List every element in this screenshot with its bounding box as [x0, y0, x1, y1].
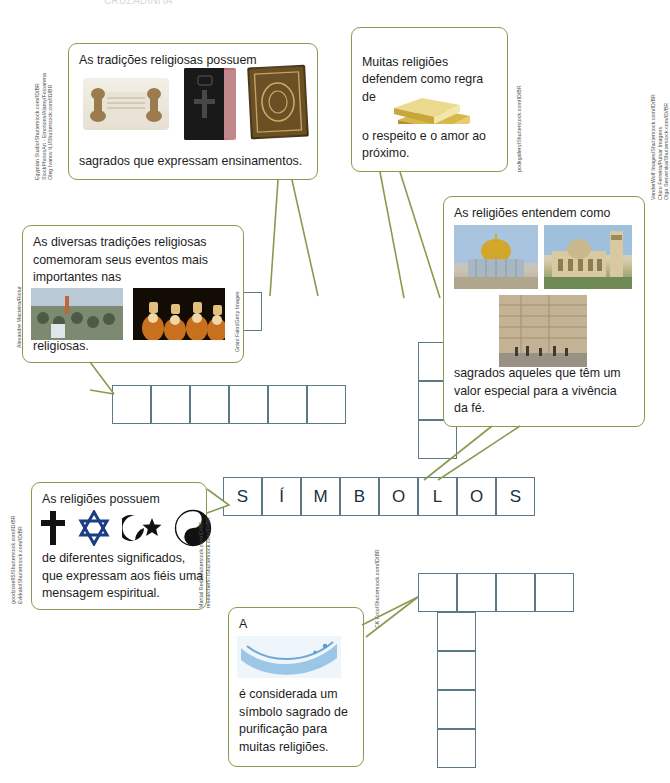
bubble-festivals-text-top: As diversas tradições religiosas comemor…: [33, 234, 233, 287]
credit-sacred-places: VanderWolf Images/Shutterstock.com/ID/BR…: [650, 94, 670, 200]
bubble-golden-rule: Muitas religiões defendem como regra de …: [351, 27, 508, 172]
bubble-books-tail: [230, 178, 340, 298]
festival-photo-image: [133, 288, 225, 340]
bubble-sacred-places: As religiões entendem como: [443, 196, 645, 427]
crossword-cell[interactable]: [190, 385, 229, 424]
bubble-water-text-bottom: é considerada um símbolo sagrado de puri…: [239, 686, 348, 756]
crossword-cell-filled[interactable]: M: [301, 477, 340, 516]
crossword-cell[interactable]: [268, 385, 307, 424]
crossword-cell[interactable]: [496, 573, 535, 612]
crossword-cell[interactable]: [307, 385, 346, 424]
crossword-cell[interactable]: [457, 573, 496, 612]
procession-photo-image: [31, 288, 123, 340]
quran-book-image: [247, 65, 309, 140]
basilica-image: [544, 225, 632, 289]
bubble-places-text-top: As religiões entendem como: [454, 205, 634, 223]
bubble-gold-text-bottom: o respeito e o amor ao próximo.: [362, 128, 486, 163]
bubble-festivals-tail: [88, 360, 128, 400]
torah-scroll-image: [83, 78, 169, 130]
bubble-symbols-text-bottom: de diferentes significados, que expressa…: [42, 550, 203, 603]
bubble-water-text-top: A: [239, 616, 353, 634]
credit-golden-rule: podkgallery/Shutterstock.com/ID/BR: [516, 85, 523, 172]
bubble-places-tail: [420, 424, 530, 486]
religious-symbols-row: [40, 509, 212, 547]
star-of-david-icon: [76, 510, 112, 546]
bubble-symbols: As religiões possuem: [31, 482, 207, 610]
page-title: CRUZADINHA: [104, 0, 173, 6]
bubble-water-tail: [356, 595, 426, 645]
credit-festivals-right: Grant Faint/Getty Images: [234, 291, 241, 352]
bubble-festivals-text-bottom: religiosas.: [33, 338, 89, 356]
crossword-cell[interactable]: [437, 612, 476, 651]
credit-festivals-left: Alexandre Macieira/Riotur: [16, 286, 23, 348]
western-wall-image: [499, 295, 587, 367]
crossword-cell[interactable]: [151, 385, 190, 424]
bubble-symbols-tail: [205, 487, 231, 517]
bubble-places-text-bottom: sagrados aqueles que têm um valor especi…: [454, 365, 621, 418]
christian-cross-icon: [40, 509, 66, 547]
bubble-symbols-text-top: As religiões possuem: [42, 491, 196, 509]
crossword-cell[interactable]: [229, 385, 268, 424]
credit-sacred-books: Egyptian Studio/Shutterstock.com/ID/BR S…: [34, 73, 54, 180]
water-splash-image: [237, 636, 341, 678]
dome-of-the-rock-image: [454, 225, 538, 289]
crossword-cell[interactable]: [535, 573, 574, 612]
crossword-cell[interactable]: [437, 690, 476, 729]
gold-bars-image: [388, 76, 480, 124]
bubble-festivals: As diversas tradições religiosas comemor…: [22, 225, 244, 363]
bubble-water: A é considerada um símbolo sagrado de pu…: [228, 607, 364, 767]
crossword-cell-filled[interactable]: Í: [262, 477, 301, 516]
bubble-sacred-books: As tradições religiosas possuem: [68, 43, 318, 180]
star-and-crescent-icon: [122, 510, 164, 546]
credit-symbols-right: Martial Red/Shutterstock.com/ID/BR resea…: [198, 517, 211, 608]
crossword-cell-filled[interactable]: O: [379, 477, 418, 516]
crossword-cell-filled[interactable]: B: [340, 477, 379, 516]
bible-book-image: [184, 68, 236, 140]
crossword-cell[interactable]: [437, 651, 476, 690]
credit-symbols-left: goodzone95/Shutterstock.com/ID/BR Evkkal…: [10, 515, 23, 604]
crossword-cell[interactable]: [437, 729, 476, 768]
bubble-books-text-bottom: sagrados que expressam ensinamentos.: [79, 153, 302, 171]
